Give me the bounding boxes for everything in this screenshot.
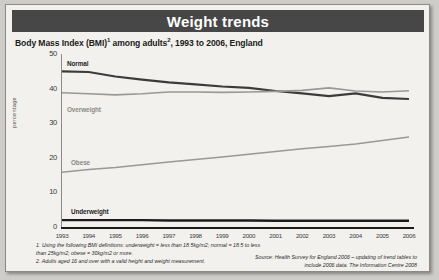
subtitle-text-after: , 1993 to 2006, England xyxy=(170,38,262,48)
y-tick-30: 30 xyxy=(35,118,57,127)
subtitle-text-before: Body Mass Index (BMI) xyxy=(15,38,107,48)
chart-card: Weight trends Body Mass Index (BMI)1 amo… xyxy=(5,4,430,272)
chart-lines xyxy=(61,54,414,230)
x-tick-1999: 1999 xyxy=(207,232,237,239)
chart-subtitle: Body Mass Index (BMI)1 among adults2, 19… xyxy=(15,37,263,48)
title-bar: Weight trends xyxy=(12,10,424,32)
y-tick-10: 10 xyxy=(35,187,57,196)
x-tick-2001: 2001 xyxy=(261,232,291,239)
y-tick-20: 20 xyxy=(35,153,57,162)
series-label-normal: Normal xyxy=(67,60,88,67)
x-tick-1993: 1993 xyxy=(47,232,77,239)
x-tick-1996: 1996 xyxy=(127,232,157,239)
x-tick-2005: 2005 xyxy=(367,232,397,239)
y-axis-label: percentage xyxy=(11,97,17,128)
series-label-obese: Obese xyxy=(71,159,90,166)
x-tick-2000: 2000 xyxy=(234,232,264,239)
x-tick-1997: 1997 xyxy=(154,232,184,239)
x-tick-1998: 1998 xyxy=(180,232,210,239)
x-tick-2006: 2006 xyxy=(394,232,424,239)
source-note: Source: Health Survey for England 2006 –… xyxy=(245,254,417,270)
series-line-obese xyxy=(62,137,409,172)
series-label-overweight: Overweight xyxy=(67,106,101,113)
x-tick-1995: 1995 xyxy=(100,232,130,239)
plot-area: percentage 10203040500 19931994199519961… xyxy=(15,50,423,240)
footnotes: 1. Using the following BMI definitions: … xyxy=(36,242,266,266)
y-tick-50: 50 xyxy=(35,49,57,58)
subtitle-text-mid: among adults xyxy=(110,38,167,48)
footnote-1: 1. Using the following BMI definitions: … xyxy=(36,242,266,258)
x-tick-2004: 2004 xyxy=(341,232,371,239)
footnote-2: 2. Adults aged 16 and over with a valid … xyxy=(36,258,266,266)
series-line-underweight xyxy=(62,220,409,221)
page-title: Weight trends xyxy=(167,13,269,30)
y-tick-40: 40 xyxy=(35,84,57,93)
y-tick-0: 0 xyxy=(35,222,57,231)
x-tick-1994: 1994 xyxy=(74,232,104,239)
x-tick-2002: 2002 xyxy=(287,232,317,239)
x-tick-2003: 2003 xyxy=(314,232,344,239)
series-label-underweight: Underweight xyxy=(71,208,109,215)
